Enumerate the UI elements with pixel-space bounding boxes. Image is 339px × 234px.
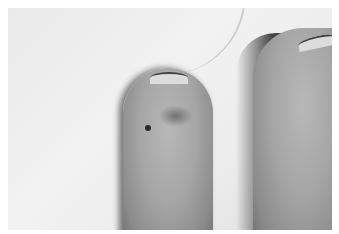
left-nail-edge xyxy=(150,72,188,84)
left-fingertip xyxy=(123,68,213,230)
clinical-photo: Black-and-white clinical photograph of t… xyxy=(8,8,332,230)
right-fingertip xyxy=(253,28,332,230)
bruise-area xyxy=(158,105,193,127)
dark-lesion xyxy=(145,125,151,131)
